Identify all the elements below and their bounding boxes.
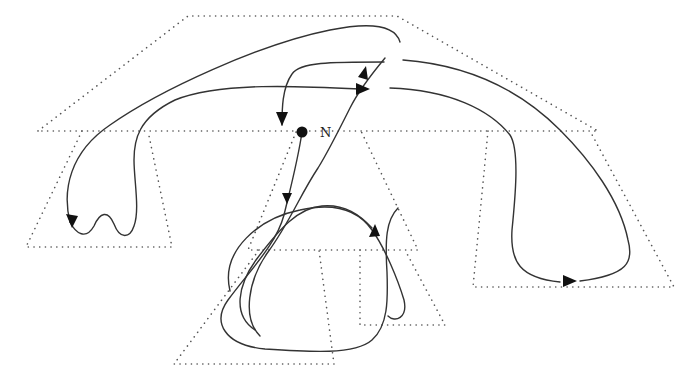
arrow-up-top-icon xyxy=(358,66,368,80)
right-trapezoid-region xyxy=(473,131,674,287)
central-up-strand-curve xyxy=(228,207,404,319)
node-to-bottom-curve xyxy=(221,132,398,351)
right-inner-curve xyxy=(390,88,560,282)
arrow-left-loop-icon xyxy=(66,214,78,228)
outer-left-loop-curve xyxy=(67,26,400,222)
flow-diagram: N xyxy=(0,0,690,388)
arrow-into-node-icon xyxy=(276,112,288,126)
node-n-marker xyxy=(297,127,308,138)
inner-top-to-node-curve xyxy=(282,62,384,125)
flow-arrowheads xyxy=(66,66,577,287)
arrow-right-bottom-icon xyxy=(563,275,577,287)
bottom-loop-curve xyxy=(240,206,372,330)
central-s-curve-curve xyxy=(249,58,385,336)
node-n-label: N xyxy=(320,125,331,140)
left-wiggle-curve xyxy=(70,86,360,235)
dotted-regions xyxy=(26,16,674,364)
arrow-down-center-icon xyxy=(282,193,292,204)
center-trapezoid-region xyxy=(248,131,418,250)
left-trapezoid-region xyxy=(26,131,172,247)
flow-curves xyxy=(67,26,630,352)
arrow-right-top-icon xyxy=(356,83,370,95)
